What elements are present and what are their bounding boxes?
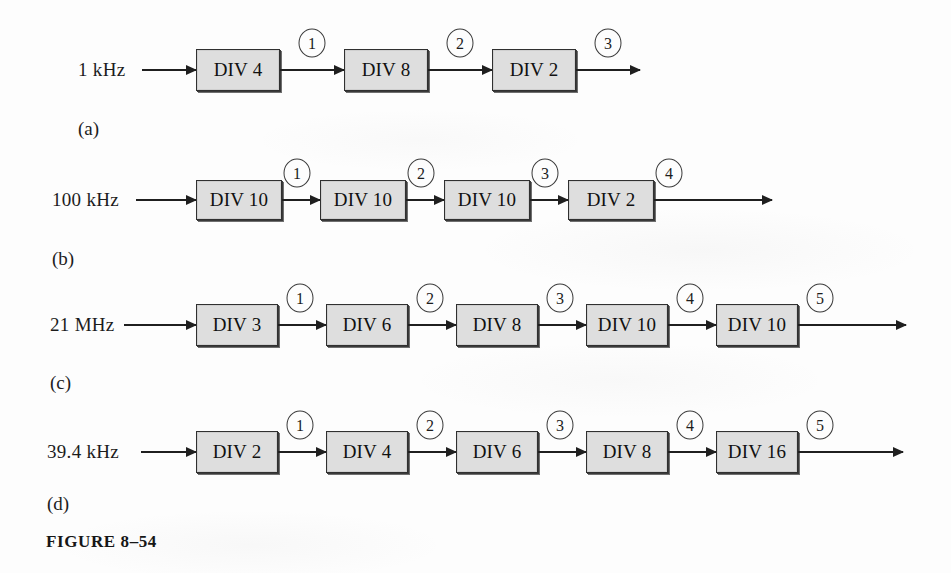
test-point-marker: 2 — [447, 29, 474, 58]
divider-block: DIV 2 — [568, 180, 654, 220]
divider-block-label: DIV 10 — [334, 189, 392, 211]
output-arrow — [576, 69, 640, 71]
divider-block-label: DIV 2 — [213, 441, 262, 463]
part-label-c: (c) — [50, 372, 71, 394]
output-arrow — [798, 324, 906, 326]
divider-block: DIV 8 — [586, 431, 668, 473]
connector-arrow — [408, 451, 456, 453]
divider-block-label: DIV 10 — [210, 189, 268, 211]
test-point-marker: 4 — [677, 411, 704, 440]
test-point-marker: 3 — [547, 284, 574, 313]
divider-block-label: DIV 8 — [362, 59, 411, 81]
test-point-marker: 2 — [408, 159, 435, 188]
divider-block: DIV 2 — [196, 431, 278, 473]
test-point-marker: 3 — [595, 29, 622, 58]
connector-arrow — [406, 199, 444, 201]
test-point-marker: 2 — [417, 411, 444, 440]
divider-block: DIV 10 — [586, 304, 668, 346]
input-frequency-label: 100 kHz — [52, 189, 119, 211]
output-arrow — [798, 451, 903, 453]
input-arrow — [136, 199, 196, 201]
divider-block: DIV 3 — [196, 304, 278, 346]
figure-page: 1 kHz(a)DIV 41DIV 82DIV 23100 kHz(b)DIV … — [0, 0, 951, 573]
divider-block: DIV 4 — [326, 431, 408, 473]
connector-arrow — [278, 324, 326, 326]
divider-block: DIV 8 — [344, 49, 428, 91]
test-point-marker: 1 — [284, 159, 311, 188]
connector-arrow — [668, 324, 716, 326]
test-point-marker: 5 — [807, 411, 834, 440]
divider-block: DIV 8 — [456, 304, 538, 346]
part-label-d: (d) — [47, 493, 69, 515]
connector-arrow — [538, 324, 586, 326]
divider-block: DIV 4 — [196, 49, 280, 91]
divider-block-label: DIV 2 — [510, 59, 559, 81]
divider-block-label: DIV 10 — [458, 189, 516, 211]
divider-block-label: DIV 4 — [343, 441, 392, 463]
input-frequency-label: 21 MHz — [50, 314, 115, 336]
input-arrow — [141, 451, 196, 453]
input-arrow — [142, 69, 196, 71]
connector-arrow — [668, 451, 716, 453]
connector-arrow — [278, 451, 326, 453]
part-label-a: (a) — [78, 118, 99, 140]
connector-arrow — [428, 69, 492, 71]
divider-block-label: DIV 6 — [473, 441, 522, 463]
divider-block: DIV 6 — [326, 304, 408, 346]
divider-block: DIV 10 — [716, 304, 798, 346]
divider-block: DIV 2 — [492, 49, 576, 91]
test-point-marker: 1 — [299, 29, 326, 58]
part-label-b: (b) — [52, 248, 74, 270]
input-frequency-label: 1 kHz — [78, 59, 125, 81]
divider-block-label: DIV 6 — [343, 314, 392, 336]
input-frequency-label: 39.4 kHz — [47, 441, 119, 463]
connector-arrow — [530, 199, 568, 201]
divider-block-label: DIV 16 — [728, 441, 786, 463]
test-point-marker: 2 — [417, 284, 444, 313]
figure-caption: FIGURE 8–54 — [46, 532, 157, 552]
divider-block-label: DIV 3 — [213, 314, 262, 336]
test-point-marker: 3 — [547, 411, 574, 440]
divider-block-label: DIV 10 — [728, 314, 786, 336]
divider-block-label: DIV 4 — [214, 59, 263, 81]
divider-block: DIV 10 — [444, 180, 530, 220]
connector-arrow — [280, 69, 344, 71]
connector-arrow — [538, 451, 586, 453]
divider-block: DIV 16 — [716, 431, 798, 473]
output-arrow — [654, 199, 772, 201]
divider-block: DIV 10 — [196, 180, 282, 220]
divider-block-label: DIV 2 — [587, 189, 636, 211]
input-arrow — [124, 324, 196, 326]
test-point-marker: 4 — [677, 284, 704, 313]
test-point-marker: 1 — [287, 284, 314, 313]
divider-block-label: DIV 10 — [598, 314, 656, 336]
divider-block-label: DIV 8 — [603, 441, 652, 463]
connector-arrow — [408, 324, 456, 326]
divider-block: DIV 6 — [456, 431, 538, 473]
connector-arrow — [282, 199, 320, 201]
test-point-marker: 5 — [807, 284, 834, 313]
divider-block: DIV 10 — [320, 180, 406, 220]
test-point-marker: 1 — [287, 411, 314, 440]
test-point-marker: 4 — [656, 159, 683, 188]
test-point-marker: 3 — [532, 159, 559, 188]
divider-block-label: DIV 8 — [473, 314, 522, 336]
